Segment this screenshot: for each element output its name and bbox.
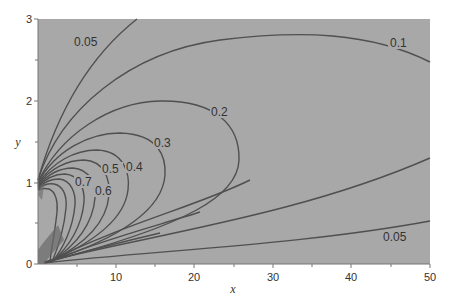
y-tick-0: 0: [26, 258, 32, 270]
x-tick-40: 40: [345, 271, 357, 283]
x-tick-10: 10: [110, 271, 122, 283]
y-axis-label: y: [14, 135, 21, 149]
plot-area: [38, 19, 430, 264]
contour-label-0.05-top: 0.05: [74, 35, 98, 49]
contour-label-0.3: 0.3: [154, 136, 171, 150]
contour-label-0.7: 0.7: [75, 175, 92, 189]
contour-label-0.05-bottom: 0.05: [383, 230, 407, 244]
y-tick-2: 2: [26, 95, 32, 107]
y-tick-3: 3: [26, 13, 32, 25]
x-axis-label: x: [229, 282, 236, 296]
contour-label-0.6: 0.6: [95, 184, 112, 198]
x-tick-labels: 10 20 30 40 50: [110, 271, 436, 283]
contour-label-0.1: 0.1: [390, 36, 407, 50]
contour-label-0.5: 0.5: [102, 162, 119, 176]
y-tick-1: 1: [26, 177, 32, 189]
x-tick-30: 30: [267, 271, 279, 283]
x-tick-50: 50: [424, 271, 436, 283]
contour-chart: 0.05 0.1 0.2 0.3 0.5 0.4 0.7 0.6 0.05: [0, 0, 449, 304]
contour-label-0.2: 0.2: [211, 105, 228, 119]
contour-label-0.4: 0.4: [126, 160, 143, 174]
y-tick-labels: 0 1 2 3: [26, 13, 32, 270]
x-tick-20: 20: [188, 271, 200, 283]
